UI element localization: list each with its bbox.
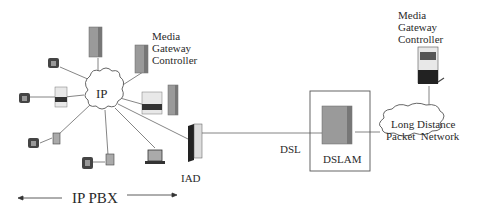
left-mgc-label-line2: Gateway: [152, 42, 191, 54]
telephone-icon: [19, 93, 30, 103]
server-icon: [168, 85, 178, 115]
left-mgc-label-line3: Controller: [152, 54, 197, 66]
dsl-label: DSL: [280, 143, 301, 155]
right-mgc-label-line3: Controller: [398, 33, 443, 45]
dslam-label: DSLAM: [323, 153, 362, 165]
ld-network-label-line2: Packet Network: [386, 130, 459, 142]
server-icon: [89, 27, 102, 57]
media-gateway-controller-server-icon: [135, 45, 148, 73]
ip-phone-icon: [106, 154, 114, 165]
telephone-icon: [28, 138, 39, 148]
ip-phone-icon: [53, 133, 60, 144]
telephone-icon: [82, 157, 93, 169]
dslam-server-icon: [322, 106, 352, 144]
iad-device-icon: [188, 124, 202, 162]
computer-icon: [145, 150, 165, 164]
ld-network-label-line1: Long Distance: [391, 118, 455, 130]
ip-pbx-label: IP PBX: [72, 190, 118, 206]
telephone-icon: [48, 58, 59, 68]
media-gateway-controller-server-icon: [418, 47, 444, 84]
iad-label: IAD: [181, 172, 201, 184]
ip-cloud-label: IP: [96, 88, 108, 100]
right-mgc-label-line2: Gateway: [398, 21, 437, 33]
gateway-box-icon: [55, 87, 67, 107]
left-mgc-label-line1: Media: [152, 30, 180, 42]
gateway-box-icon: [142, 92, 162, 114]
right-mgc-label-line1: Media: [398, 9, 426, 21]
